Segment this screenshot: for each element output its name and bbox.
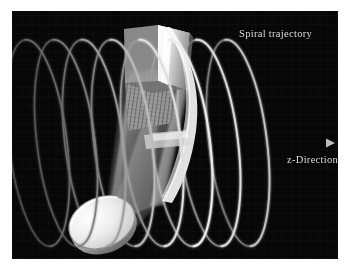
z-direction-label: z-Direction xyxy=(287,154,338,165)
spiral-trajectory-label: Spiral trajectory xyxy=(239,28,312,39)
figure-root: Spiral trajectory z-Direction xyxy=(0,0,346,271)
scene-panel: Spiral trajectory z-Direction xyxy=(12,11,338,259)
z-axis-arrow xyxy=(70,139,335,148)
scene-illustration xyxy=(12,11,338,259)
